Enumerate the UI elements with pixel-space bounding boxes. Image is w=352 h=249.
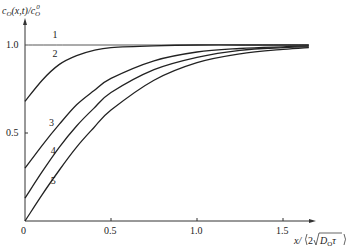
svg-text:DOτ: DOτ: [319, 235, 336, 248]
curve-label-5: 5: [51, 175, 56, 186]
curve-label-4: 4: [51, 145, 56, 156]
y-tick-label-1.0: 1.0: [6, 39, 19, 50]
curves-group: [25, 45, 309, 221]
svg-text:x/: x/: [293, 235, 302, 246]
curve-3: [25, 46, 309, 168]
origin-label: 0: [21, 225, 26, 236]
svg-text:2: 2: [308, 235, 313, 246]
x-tick-label-1.5: 1.5: [276, 225, 289, 236]
y-axis-arrow-icon: [23, 18, 27, 25]
x-axis-arrow-icon: [309, 219, 316, 223]
x-tick-label-1.0: 1.0: [190, 225, 203, 236]
y-tick-label-0.5: 0.5: [6, 127, 19, 138]
curve-label-2: 2: [53, 48, 58, 59]
curve-label-3: 3: [49, 117, 54, 128]
concentration-profile-chart: cO(x,t)/cO0 0.5 1.0 0 0.5 1.0 1.5 x/ 2 D…: [0, 0, 352, 249]
x-tick-label-0.5: 0.5: [104, 225, 117, 236]
curve-5: [25, 48, 309, 221]
x-axis-label: x/ 2 DOτ: [293, 233, 346, 248]
y-axis-label: cO(x,t)/cO0: [2, 3, 40, 18]
curve-label-1: 1: [53, 29, 58, 40]
curve-labels-group: 12345: [49, 29, 57, 186]
curve-4: [25, 47, 309, 198]
